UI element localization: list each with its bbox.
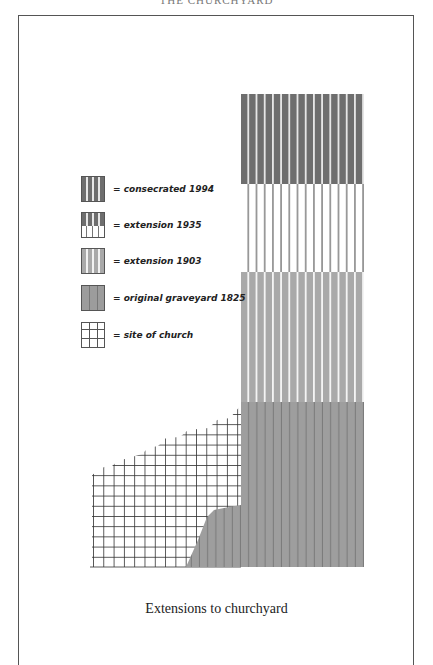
region-extension-1903 [241, 272, 364, 402]
region-consecrated-1994 [241, 94, 364, 182]
region-original-graveyard-1825 [241, 402, 364, 567]
figure-caption: Extensions to churchyard [0, 601, 433, 617]
legend-label: = extension 1935 [113, 220, 202, 230]
swatch-consecrated-1994-icon [81, 176, 105, 202]
legend-item-site-of-church: = site of church [81, 322, 193, 348]
swatch-original-graveyard-1825-icon [81, 285, 105, 311]
region-extension-1935 [241, 182, 364, 272]
legend-item-consecrated-1994: = consecrated 1994 [81, 176, 214, 202]
legend-label: = extension 1903 [113, 256, 202, 266]
legend-item-original-graveyard-1825: = original graveyard 1825 [81, 285, 246, 311]
legend-label: = original graveyard 1825 [113, 293, 246, 303]
swatch-extension-1935-icon [81, 212, 105, 238]
legend-item-extension-1935: = extension 1935 [81, 212, 202, 238]
legend-label: = consecrated 1994 [113, 184, 214, 194]
swatch-site-of-church-icon [81, 322, 105, 348]
legend-item-extension-1903: = extension 1903 [81, 248, 202, 274]
swatch-extension-1903-icon [81, 248, 105, 274]
legend-label: = site of church [113, 330, 193, 340]
